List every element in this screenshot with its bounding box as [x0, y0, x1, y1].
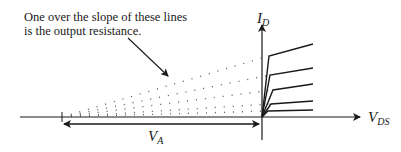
annotation-line-2: is the output resistance.: [24, 24, 187, 38]
output-characteristic-diagram: One over the slope of these lines is the…: [0, 0, 401, 152]
curve-5: [262, 110, 313, 117]
id-vds-curves: [262, 44, 313, 117]
va-label: VA: [148, 128, 163, 146]
annotation-text: One over the slope of these lines is the…: [24, 10, 187, 38]
curve-3: [262, 84, 313, 117]
annotation-line-1: One over the slope of these lines: [24, 10, 187, 24]
extrapolation-lines: [62, 56, 273, 117]
vds-axis-label: VDS: [368, 109, 389, 127]
annotation-arrow: [128, 38, 168, 76]
id-axis-label: ID: [257, 10, 269, 28]
curve-4: [262, 101, 313, 117]
